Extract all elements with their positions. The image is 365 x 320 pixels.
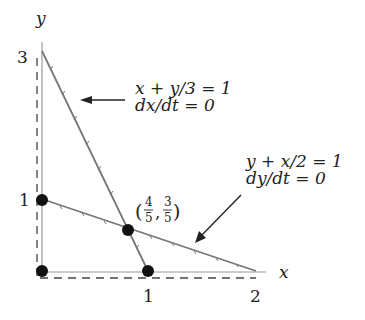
y-tick-1: 1 (19, 190, 30, 210)
svg-text:,: , (155, 202, 160, 222)
y-axis-label: y (35, 8, 46, 28)
x-tick-2: 2 (250, 286, 261, 306)
point-x-intercept-1 (142, 265, 154, 277)
y-nullcline-condition: dy/dt = 0 (246, 168, 326, 188)
point-y-intercept-1 (36, 194, 48, 206)
point-intersection (122, 224, 134, 236)
svg-text:3: 3 (164, 195, 172, 209)
x-axis-label: x (279, 262, 289, 282)
x-nullcline-hatches (50, 66, 139, 249)
nullcline-diagram: y x 3 1 1 2 x + y/3 = 1 dx/dt = 0 y + x/… (0, 0, 365, 320)
svg-text:4: 4 (145, 195, 153, 209)
svg-text:5: 5 (145, 211, 153, 225)
y-nullcline-arrow (195, 195, 241, 243)
svg-text:): ) (173, 200, 180, 222)
x-nullcline-condition: dx/dt = 0 (135, 95, 215, 115)
y-tick-3: 3 (17, 47, 28, 67)
svg-text:5: 5 (164, 211, 172, 225)
point-origin (36, 265, 48, 277)
x-nullcline-line (42, 51, 148, 271)
svg-text:(: ( (135, 200, 142, 222)
x-tick-1: 1 (143, 286, 154, 306)
intersection-label: ( 4 5 , 3 5 ) (135, 195, 180, 225)
x-nullcline-arrow (80, 96, 125, 104)
